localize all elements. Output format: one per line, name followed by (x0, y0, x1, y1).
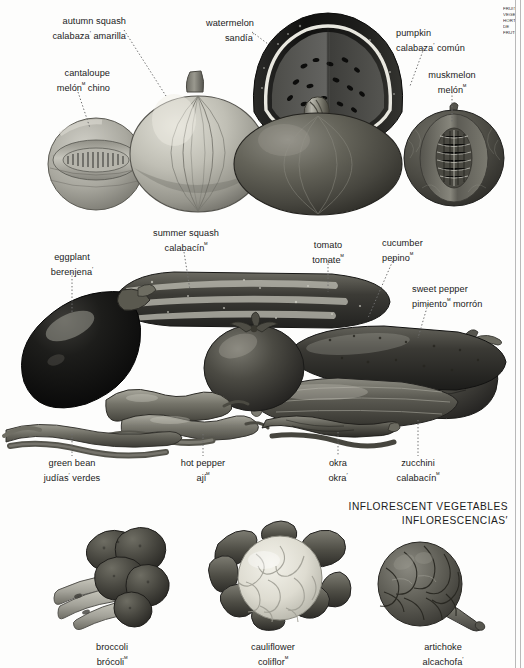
label-broccoli-es: brócoliᴹ (70, 653, 154, 668)
label-artichoke-en: artichoke (400, 642, 486, 653)
label-cucumber-es: pepinoᴹ (382, 249, 466, 264)
label-summer-squash-en: summer squash (134, 228, 238, 239)
label-watermelon: watermelon sandía′ (148, 18, 254, 45)
label-broccoli: broccoli brócoliᴹ (70, 642, 154, 668)
label-tomato: tomato tomateᴹ (290, 240, 366, 267)
label-autumn-squash: autumn squash calabaza′ amarilla (0, 16, 126, 43)
dictionary-page: autumn squash calabaza′ amarilla waterme… (0, 0, 524, 668)
label-okra: okra okra′ (304, 458, 372, 485)
label-broccoli-en: broccoli (70, 642, 154, 653)
label-eggplant-en: eggplant (26, 252, 118, 263)
label-hot-pepper-en: hot pepper (160, 458, 246, 469)
label-cucumber: cucumber pepinoᴹ (382, 238, 466, 265)
label-artichoke-es: alcachofa′ (400, 653, 486, 668)
label-watermelon-es: sandía′ (148, 29, 254, 44)
label-eggplant-es: berenjena′ (26, 263, 118, 278)
label-green-bean-en: green bean (26, 458, 118, 469)
label-pumpkin: pumpkin calabaza′ común (396, 28, 516, 55)
section-heading-es: INFLORESCENCIAS′ (300, 514, 508, 528)
label-zucchini-es: calabacínᴹ (376, 469, 460, 484)
label-cantaloupe-es: melónᴹ chino (0, 79, 110, 94)
label-cantaloupe: cantaloupe melónᴹ chino (0, 68, 110, 95)
label-autumn-squash-en: autumn squash (0, 16, 126, 27)
label-tomato-en: tomato (290, 240, 366, 251)
label-hot-pepper: hot pepper ajíᴹ (160, 458, 246, 485)
label-tomato-es: tomateᴹ (290, 251, 366, 266)
label-summer-squash-es: calabacínᴹ (134, 239, 238, 254)
label-autumn-squash-es: calabaza′ amarilla (0, 27, 126, 42)
label-sweet-pepper-en: sweet pepper (412, 284, 524, 295)
label-muskmelon-es: melónᴹ (412, 81, 492, 96)
section-heading-en: INFLORESCENT VEGETABLES (300, 500, 508, 514)
label-pumpkin-es: calabaza′ común (396, 39, 516, 54)
label-cauliflower-en: cauliflower (226, 642, 320, 653)
label-green-bean: green bean judías′ verdes (26, 458, 118, 485)
label-summer-squash: summer squash calabacínᴹ (134, 228, 238, 255)
label-muskmelon-en: muskmelon (412, 70, 492, 81)
label-muskmelon: muskmelon melónᴹ (412, 70, 492, 97)
label-green-bean-es: judías′ verdes (26, 469, 118, 484)
label-cucumber-en: cucumber (382, 238, 466, 249)
label-cauliflower: cauliflower coliflorᴹ (226, 642, 320, 668)
label-hot-pepper-es: ajíᴹ (160, 469, 246, 484)
label-pumpkin-en: pumpkin (396, 28, 516, 39)
margin-rule-inner (515, 0, 516, 668)
label-artichoke: artichoke alcachofa′ (400, 642, 486, 668)
label-zucchini-en: zucchini (376, 458, 460, 469)
label-zucchini: zucchini calabacínᴹ (376, 458, 460, 485)
label-cantaloupe-en: cantaloupe (0, 68, 110, 79)
margin-side-text: FRUIT VEGETABLES HORTALIZAS DE FRUTO (503, 6, 515, 84)
label-eggplant: eggplant berenjena′ (26, 252, 118, 279)
label-cauliflower-es: coliflorᴹ (226, 653, 320, 668)
leader-lines (0, 0, 524, 668)
label-watermelon-en: watermelon (148, 18, 254, 29)
margin-rule-outer (520, 0, 521, 668)
label-sweet-pepper: sweet pepper pimientoᴹ morrón (412, 284, 524, 311)
label-sweet-pepper-es: pimientoᴹ morrón (412, 295, 524, 310)
label-okra-es: okra′ (304, 469, 372, 484)
label-okra-en: okra (304, 458, 372, 469)
section-heading-inflorescent: INFLORESCENT VEGETABLES INFLORESCENCIAS′ (300, 500, 508, 527)
